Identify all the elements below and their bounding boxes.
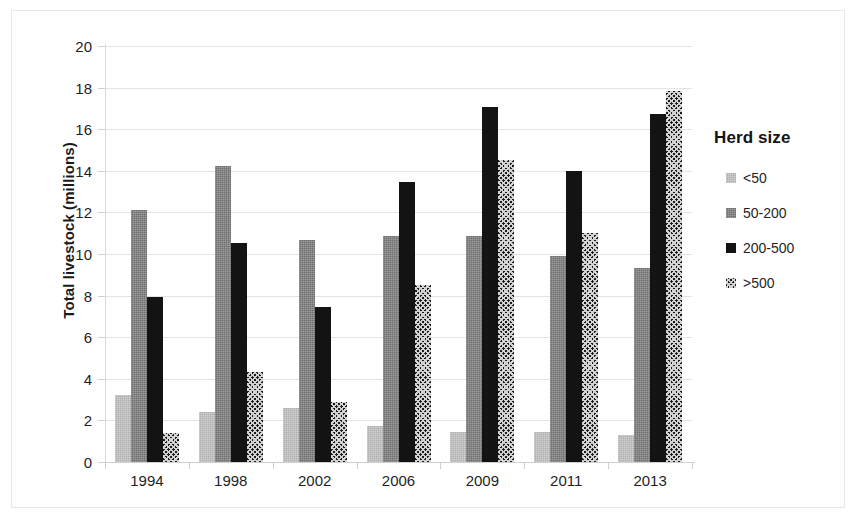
x-tick-label-2009: 2009: [442, 472, 522, 489]
legend-label-50-200: 50-200: [743, 205, 787, 221]
bar-2009->500[interactable]: [498, 160, 514, 462]
y-tick-label-16: 16: [58, 121, 92, 138]
legend-swatch-icon-light-grey: [726, 173, 736, 183]
x-tick-mark-1: [189, 462, 190, 469]
bar-1994-<50[interactable]: [115, 395, 131, 462]
legend-label-200-500: 200-500: [743, 240, 794, 256]
bar-2013-50-200[interactable]: [634, 268, 650, 462]
x-tick-label-1994: 1994: [107, 472, 187, 489]
bar-2006-50-200[interactable]: [383, 236, 399, 462]
bar-2006-<50[interactable]: [367, 426, 383, 462]
y-tick-mark-18: [98, 88, 105, 89]
y-tick-label-12: 12: [58, 204, 92, 221]
x-tick-mark-end: [692, 462, 693, 469]
plot-area: [105, 46, 692, 462]
y-tick-label-18: 18: [58, 79, 92, 96]
bar-2009-<50[interactable]: [450, 432, 466, 462]
gridline-0: [105, 462, 692, 463]
bar-1998-50-200[interactable]: [215, 166, 231, 462]
bar-2009-50-200[interactable]: [466, 236, 482, 462]
y-tick-mark-4: [98, 379, 105, 380]
legend-title: Herd size: [714, 128, 849, 148]
legend-swatch-icon-checkerboard: [726, 278, 736, 288]
bar-2013->500[interactable]: [666, 91, 682, 462]
bar-2006-200-500[interactable]: [399, 182, 415, 462]
y-tick-mark-6: [98, 337, 105, 338]
bar-1998-<50[interactable]: [199, 412, 215, 462]
legend-items: <5050-200200-500>500: [714, 170, 849, 291]
x-tick-mark-3: [357, 462, 358, 469]
legend-item-200-500[interactable]: 200-500: [714, 240, 849, 256]
bar-1994-50-200[interactable]: [131, 210, 147, 462]
bar-2002->500[interactable]: [331, 402, 347, 462]
y-tick-label-6: 6: [58, 329, 92, 346]
bar-2006->500[interactable]: [415, 285, 431, 462]
bar-group-2013: [618, 46, 682, 462]
y-tick-mark-10: [98, 254, 105, 255]
y-tick-label-0: 0: [58, 454, 92, 471]
bar-1998-200-500[interactable]: [231, 243, 247, 462]
y-tick-mark-8: [98, 296, 105, 297]
bar-2009-200-500[interactable]: [482, 107, 498, 462]
bar-2011-50-200[interactable]: [550, 256, 566, 462]
x-tick-label-1998: 1998: [191, 472, 271, 489]
x-tick-mark-5: [524, 462, 525, 469]
bar-1998->500[interactable]: [247, 372, 263, 462]
bar-group-2002: [283, 46, 347, 462]
y-tick-mark-2: [98, 420, 105, 421]
y-tick-label-8: 8: [58, 287, 92, 304]
bar-group-1998: [199, 46, 263, 462]
bar-group-2006: [367, 46, 431, 462]
legend-item-50-200[interactable]: 50-200: [714, 205, 849, 221]
legend-swatch-icon-black: [726, 243, 736, 253]
legend-swatch-icon-medium-grey: [726, 208, 736, 218]
bar-2002-50-200[interactable]: [299, 240, 315, 462]
x-tick-label-2006: 2006: [359, 472, 439, 489]
y-tick-mark-12: [98, 212, 105, 213]
bar-group-2011: [534, 46, 598, 462]
y-tick-label-2: 2: [58, 412, 92, 429]
y-tick-label-4: 4: [58, 370, 92, 387]
x-tick-mark-6: [608, 462, 609, 469]
bar-group-1994: [115, 46, 179, 462]
bar-1994->500[interactable]: [163, 433, 179, 462]
bar-2002-<50[interactable]: [283, 408, 299, 462]
legend-label-<50: <50: [743, 170, 767, 186]
x-axis-tick-labels: 1994199820022006200920112013: [105, 472, 692, 500]
y-tick-mark-14: [98, 171, 105, 172]
bar-2002-200-500[interactable]: [315, 307, 331, 462]
x-tick-label-2011: 2011: [526, 472, 606, 489]
y-tick-mark-20: [98, 46, 105, 47]
bars-layer: [105, 46, 692, 462]
x-tick-mark-0: [105, 462, 106, 469]
y-tick-label-14: 14: [58, 162, 92, 179]
bar-2013-200-500[interactable]: [650, 114, 666, 462]
bar-2011-200-500[interactable]: [566, 171, 582, 462]
y-tick-label-20: 20: [58, 38, 92, 55]
y-axis-tick-labels: 20181614121086420: [52, 46, 92, 462]
legend-item->500[interactable]: >500: [714, 275, 849, 291]
bar-2013-<50[interactable]: [618, 435, 634, 462]
y-tick-mark-16: [98, 129, 105, 130]
y-tick-label-10: 10: [58, 246, 92, 263]
bar-group-2009: [450, 46, 514, 462]
x-tick-label-2013: 2013: [610, 472, 690, 489]
chart-figure: Total livestock (millions) 2018161412108…: [0, 0, 860, 525]
x-tick-mark-2: [273, 462, 274, 469]
bar-1994-200-500[interactable]: [147, 297, 163, 462]
y-tick-mark-0: [98, 462, 105, 463]
legend-item-<50[interactable]: <50: [714, 170, 849, 186]
x-tick-label-2002: 2002: [275, 472, 355, 489]
bar-2011->500[interactable]: [582, 233, 598, 462]
x-tick-mark-4: [440, 462, 441, 469]
legend: Herd size <5050-200200-500>500: [714, 128, 849, 310]
legend-label->500: >500: [743, 275, 775, 291]
bar-2011-<50[interactable]: [534, 432, 550, 462]
